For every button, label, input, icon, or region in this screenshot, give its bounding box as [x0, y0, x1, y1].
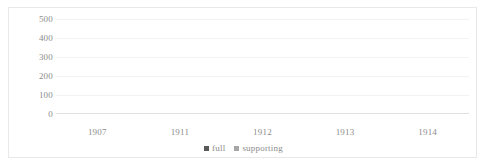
y-axis-tick-label: 200 [9, 72, 53, 81]
chart-legend: fullsupporting [9, 144, 478, 153]
legend-label: full [212, 144, 225, 153]
x-axis-tick-label: 1912 [221, 125, 304, 139]
x-axis-tick-label: 1907 [56, 125, 139, 139]
x-axis-tick-label: 1914 [386, 125, 469, 139]
x-axis-tick-label: 1911 [139, 125, 222, 139]
legend-entry[interactable]: full [204, 144, 225, 153]
plot-area [56, 19, 469, 114]
x-axis-line [56, 113, 469, 114]
y-axis: 500 400 300 200 100 0 [9, 19, 53, 114]
legend-swatch-icon [234, 146, 239, 151]
x-axis: 19071911191219131914 [56, 125, 469, 139]
chart-container: 500 400 300 200 100 0 190719111912191319… [8, 7, 477, 158]
bar-slot [304, 18, 387, 113]
bar-slot [221, 18, 304, 113]
y-axis-tick-label: 500 [9, 15, 53, 24]
y-axis-tick-label: 100 [9, 91, 53, 100]
bar-slot [56, 18, 139, 113]
bar-series-group [56, 18, 469, 113]
bar-slot [139, 18, 222, 113]
y-axis-tick-label: 0 [9, 110, 53, 119]
x-axis-tick-label: 1913 [304, 125, 387, 139]
bar-slot [386, 18, 469, 113]
legend-label: supporting [242, 144, 283, 153]
legend-swatch-icon [204, 146, 209, 151]
legend-entry[interactable]: supporting [234, 144, 283, 153]
y-axis-tick-label: 400 [9, 34, 53, 43]
y-axis-tick-label: 300 [9, 53, 53, 62]
